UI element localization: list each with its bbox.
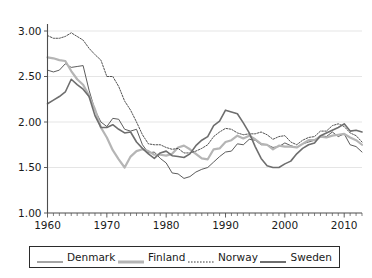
tick-marks bbox=[44, 31, 362, 218]
x-tick-label: 2000 bbox=[271, 219, 298, 231]
x-tick-label: 1980 bbox=[153, 219, 180, 231]
legend-swatch-denmark-icon bbox=[37, 252, 63, 262]
chart-figure: 1.001.502.002.503.00 1960197019801990200… bbox=[0, 0, 372, 278]
x-tick-label: 1990 bbox=[212, 219, 239, 231]
legend-label: Finland bbox=[148, 251, 186, 263]
line-chart-plot: 1.001.502.002.503.00 1960197019801990200… bbox=[0, 0, 372, 240]
legend-item-denmark[interactable]: Denmark bbox=[37, 251, 115, 263]
series-line-norway bbox=[48, 33, 363, 153]
legend-swatch-finland-icon bbox=[118, 252, 144, 262]
legend-item-finland[interactable]: Finland bbox=[118, 251, 186, 263]
axes bbox=[48, 24, 363, 213]
legend-label: Sweden bbox=[290, 251, 332, 263]
legend-label: Norway bbox=[218, 251, 258, 263]
legend-label: Denmark bbox=[67, 251, 115, 263]
y-tick-label: 1.50 bbox=[18, 161, 41, 173]
x-tick-label: 2010 bbox=[331, 219, 358, 231]
y-axis-tick-labels: 1.001.502.002.503.00 bbox=[18, 25, 41, 219]
chart-legend: DenmarkFinlandNorwaySweden bbox=[29, 246, 340, 268]
y-tick-label: 2.50 bbox=[18, 70, 41, 82]
series-line-sweden bbox=[48, 79, 363, 167]
legend-item-sweden[interactable]: Sweden bbox=[260, 251, 332, 263]
x-tick-label: 1970 bbox=[93, 219, 120, 231]
x-tick-label: 1960 bbox=[34, 219, 61, 231]
y-tick-label: 2.00 bbox=[18, 116, 41, 128]
legend-swatch-sweden-icon bbox=[260, 252, 286, 262]
data-series-group bbox=[48, 33, 363, 179]
y-tick-label: 3.00 bbox=[18, 25, 41, 37]
x-axis-tick-labels: 196019701980199020002010 bbox=[34, 219, 357, 231]
legend-swatch-norway-icon bbox=[188, 252, 214, 262]
legend-item-norway[interactable]: Norway bbox=[188, 251, 258, 263]
series-line-denmark bbox=[48, 64, 363, 179]
y-tick-label: 1.00 bbox=[18, 207, 41, 219]
